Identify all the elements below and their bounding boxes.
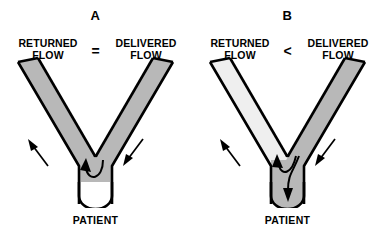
panel-b-outer-right-arrow-head (315, 154, 325, 166)
panel-b-left-arm-fill (210, 58, 290, 168)
panel-b: B RETURNED FLOW < DELIVERED FLOW (192, 0, 383, 232)
panel-a-outer-right-arrow-head (123, 154, 133, 166)
flow-diagram-figure: A RETURNED FLOW = DELIVERED FLOW (0, 0, 383, 232)
panel-b-outer-left-arrow-shaft (225, 146, 240, 166)
panel-a-letter: A (0, 8, 191, 23)
panel-a-left-arm-fill (18, 58, 98, 168)
panel-a-outer-right-arrow-shaft (128, 139, 143, 159)
panel-a-patient-label: PATIENT (0, 214, 191, 226)
panel-b-letter: B (192, 8, 383, 23)
panel-a: A RETURNED FLOW = DELIVERED FLOW (0, 0, 191, 232)
panel-a-outer-left-arrow-shaft (33, 146, 48, 166)
panel-a-outer-left-arrow-head (28, 139, 38, 151)
panel-b-outer-left-arrow-head (220, 139, 230, 151)
panel-a-tube-graphic (0, 56, 191, 208)
panel-b-patient-label: PATIENT (192, 214, 383, 226)
panel-b-tube-graphic (192, 56, 383, 208)
panel-b-outer-right-arrow-shaft (320, 139, 335, 159)
